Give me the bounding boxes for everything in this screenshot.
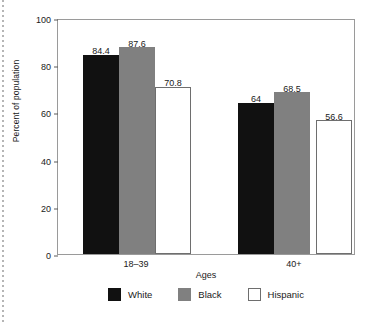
- bar-18-39-black: [119, 47, 155, 254]
- bar-40plus-white: [238, 103, 274, 254]
- bar-value-40plus-white: 64: [251, 94, 261, 104]
- y-tick-label-20: 20: [0, 204, 58, 214]
- legend-item-hispanic: Hispanic: [248, 288, 304, 301]
- bar-value-18-39-white: 84.4: [92, 46, 110, 56]
- x-axis-title: Ages: [57, 270, 355, 280]
- bar-value-40plus-black: 68.5: [283, 84, 301, 94]
- bar-value-18-39-hispanic: 70.8: [164, 78, 182, 88]
- legend-item-white: White: [108, 288, 152, 301]
- x-tick-label-40plus: 40+: [286, 259, 301, 269]
- y-tick-label-0: 0: [0, 251, 58, 261]
- bar-40plus-black: [274, 92, 310, 254]
- legend-item-black: Black: [178, 288, 221, 301]
- legend-label-hispanic: Hispanic: [268, 289, 304, 300]
- legend-label-white: White: [128, 289, 152, 300]
- legend-swatch-black-icon: [178, 288, 191, 301]
- chart-legend: White Black Hispanic: [57, 288, 355, 301]
- y-tick-label-60: 60: [0, 109, 58, 119]
- y-tick-label-80: 80: [0, 62, 58, 72]
- bar-chart-figure: Percent of population 100 80 60 40 20 0 …: [0, 0, 378, 324]
- bar-40plus-hispanic: [316, 120, 352, 254]
- legend-label-black: Black: [198, 289, 221, 300]
- bar-18-39-white: [83, 55, 119, 254]
- y-tick-label-100: 100: [0, 15, 58, 25]
- x-tick-label-18-39: 18–39: [123, 259, 148, 269]
- bar-18-39-hispanic: [155, 87, 191, 254]
- legend-swatch-hispanic-icon: [248, 288, 261, 301]
- plot-area: 100 80 60 40 20 0 84.4 87.6 70.8 64 68.5…: [57, 19, 355, 255]
- bar-value-18-39-black: 87.6: [128, 39, 146, 49]
- bar-value-40plus-hispanic: 56.6: [325, 112, 343, 122]
- legend-swatch-white-icon: [108, 288, 121, 301]
- y-tick-label-40: 40: [0, 157, 58, 167]
